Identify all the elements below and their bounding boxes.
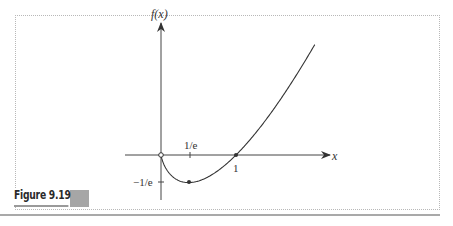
y-axis-label: f(x) xyxy=(151,7,168,21)
minimum-point xyxy=(187,180,191,184)
figure-caption: Figure 9.19 xyxy=(14,188,89,207)
figure-number: Figure 9.19 xyxy=(14,188,68,207)
caption-accent-box xyxy=(70,190,89,207)
open-origin-point xyxy=(159,153,164,158)
tick-label-inv-e: 1/e xyxy=(184,139,198,151)
x-axis-label: x xyxy=(331,149,338,163)
bottom-rule xyxy=(0,214,440,216)
tick-label-one: 1 xyxy=(233,162,239,174)
tick-label-neg-inv-e: −1/e xyxy=(133,176,153,188)
root-point xyxy=(234,153,238,157)
